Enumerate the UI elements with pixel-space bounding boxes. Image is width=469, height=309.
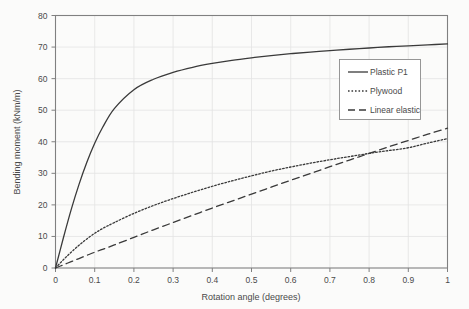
y-tick-label: 60	[38, 74, 48, 84]
y-axis-title: Bending moment (kNm/m)	[12, 89, 22, 194]
legend-label-plywood: Plywood	[370, 86, 402, 96]
y-tick-label: 40	[38, 137, 48, 147]
x-tick-label: 0.7	[324, 275, 336, 285]
x-axis-title: Rotation angle (degrees)	[201, 292, 300, 302]
x-tick-label: 0.6	[285, 275, 297, 285]
legend-label-plastic-p1: Plastic P1	[370, 67, 408, 77]
x-tick-label: 0.3	[167, 275, 179, 285]
x-tick-label: 1	[445, 275, 450, 285]
x-tick-label: 0.1	[89, 275, 101, 285]
y-tick-label: 30	[38, 168, 48, 178]
y-axis-tick-labels: 01020304050607080	[38, 11, 48, 274]
y-tick-label: 0	[43, 263, 48, 273]
y-tick-label: 20	[38, 200, 48, 210]
y-tick-label: 80	[38, 11, 48, 21]
x-tick-label: 0.2	[128, 275, 140, 285]
chart-container: 01020304050607080 00.10.20.30.40.50.60.7…	[0, 0, 469, 309]
x-tick-label: 0.5	[246, 275, 258, 285]
y-tick-label: 50	[38, 105, 48, 115]
x-tick-label: 0.4	[206, 275, 218, 285]
legend-label-linear-elastic: Linear elastic	[370, 105, 421, 115]
y-tick-label: 10	[38, 231, 48, 241]
line-chart: 01020304050607080 00.10.20.30.40.50.60.7…	[0, 0, 469, 309]
x-tick-label: 0.9	[402, 275, 414, 285]
x-tick-label: 0	[53, 275, 58, 285]
y-tick-label: 70	[38, 42, 48, 52]
x-tick-label: 0.8	[363, 275, 375, 285]
chart-legend: Plastic P1PlywoodLinear elastic	[340, 60, 421, 120]
